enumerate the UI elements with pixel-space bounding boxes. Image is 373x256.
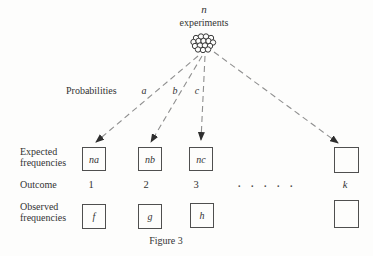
observed-box-2: g [138, 204, 162, 229]
observed-label-line1: Observed [20, 201, 66, 212]
arrow-to-outcome-3 [201, 56, 205, 140]
observed-box-k [334, 200, 359, 228]
expected-box-3: nc [189, 147, 213, 171]
probability-a: a [138, 85, 150, 96]
arrow-to-outcome-k [214, 52, 338, 143]
probability-c: c [191, 85, 203, 96]
outcome-3: 3 [186, 179, 206, 190]
n-symbol: n [197, 4, 211, 15]
arrow-to-outcome-2 [151, 56, 202, 142]
observed-frequencies-label: Observed frequencies [20, 201, 66, 223]
outcome-2: 2 [136, 179, 156, 190]
figure-3-diagram: n experiments Probabilities a b c Expect… [0, 0, 373, 256]
arrow-to-outcome-1 [96, 56, 198, 142]
experiments-label: experiments [166, 17, 242, 28]
expected-label-line1: Expected [20, 146, 66, 157]
expected-box-k [334, 147, 359, 173]
observed-label-line2: frequencies [20, 212, 66, 223]
probabilities-label: Probabilities [66, 85, 117, 96]
observed-box-1: f [82, 204, 106, 229]
expected-box-1: na [82, 147, 106, 171]
probability-b: b [169, 85, 181, 96]
experiments-cluster-icon [191, 34, 216, 53]
outcome-label: Outcome [20, 179, 57, 190]
expected-frequencies-label: Expected frequencies [20, 146, 66, 168]
observed-box-3: h [190, 203, 214, 228]
expected-box-2: nb [138, 147, 162, 171]
expected-label-line2: frequencies [20, 157, 66, 168]
outcome-k: k [335, 179, 355, 190]
figure-caption: Figure 3 [120, 235, 212, 246]
outcome-ellipsis: . . . . . [238, 178, 284, 189]
outcome-1: 1 [81, 179, 101, 190]
